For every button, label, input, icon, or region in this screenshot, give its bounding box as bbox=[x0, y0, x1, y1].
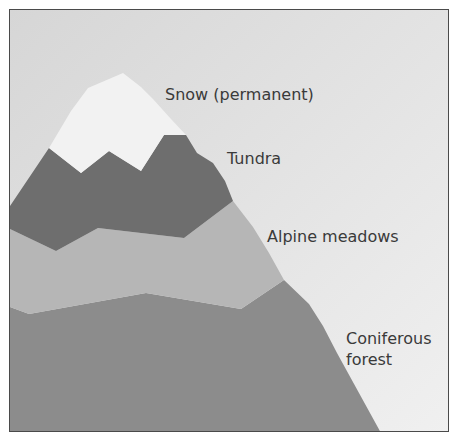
label-alpine-meadows: Alpine meadows bbox=[267, 226, 399, 247]
label-coniferous-forest-line2: forest bbox=[346, 349, 392, 370]
label-snow: Snow (permanent) bbox=[165, 84, 314, 105]
label-tundra: Tundra bbox=[227, 148, 281, 169]
label-coniferous-forest-line1: Coniferous bbox=[346, 328, 432, 349]
